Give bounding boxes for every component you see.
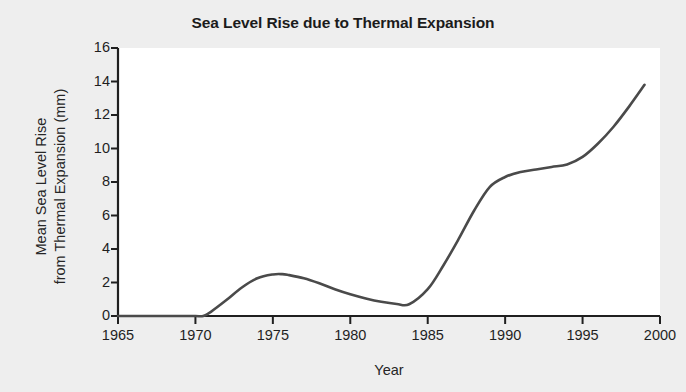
x-axis-title: Year	[118, 362, 660, 378]
x-tick-label: 1965	[88, 328, 148, 343]
x-tick-label: 1990	[475, 328, 535, 343]
x-tick-label: 1970	[165, 328, 225, 343]
chart-figure: Sea Level Rise due to Thermal Expansion …	[0, 0, 686, 392]
x-tick-label: 1975	[243, 328, 303, 343]
x-tick-label: 1995	[553, 328, 613, 343]
plot-background	[118, 48, 660, 316]
x-tick-label: 1980	[320, 328, 380, 343]
x-tick-label: 2000	[630, 328, 686, 343]
x-tick-label: 1985	[398, 328, 458, 343]
